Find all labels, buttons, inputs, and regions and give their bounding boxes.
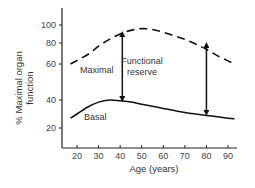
functional-reserve-label-line1: Functional [121, 56, 163, 66]
functional-reserve-label-line2: reserve [127, 67, 157, 77]
x-tick-label: 70 [180, 151, 190, 161]
x-tick-label: 80 [201, 151, 211, 161]
y-tick-label: 40 [46, 95, 56, 105]
x-tick-label: 90 [223, 151, 233, 161]
x-axis-title: Age (years) [129, 163, 178, 174]
x-tick-label: 20 [72, 151, 82, 161]
axes [62, 8, 237, 148]
y-tick-label: 80 [46, 38, 56, 48]
y-tick-label: 100 [41, 20, 56, 30]
basal-label: Basal [84, 112, 107, 122]
y-tick-label: 20 [46, 123, 56, 133]
y-ticks: 20406080100 [41, 20, 62, 133]
maximal-label: Maximal [80, 65, 114, 75]
x-tick-label: 40 [115, 151, 125, 161]
y-axis-title-line1: % Maximal organ [13, 51, 24, 124]
x-tick-label: 60 [158, 151, 168, 161]
x-tick-label: 50 [137, 151, 147, 161]
y-tick-label: 60 [46, 59, 56, 69]
y-axis-title-line2: function [24, 71, 35, 104]
functional-reserve-chart: 20406080100 2030405060708090 Maximal Bas… [0, 0, 255, 188]
x-tick-label: 30 [94, 151, 104, 161]
